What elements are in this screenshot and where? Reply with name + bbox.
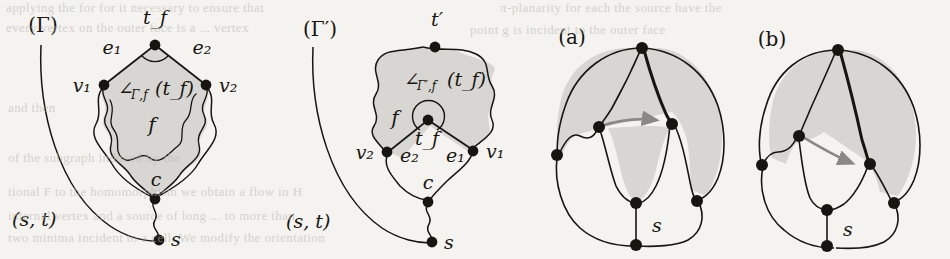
label-a-s: s (652, 214, 662, 236)
vertex-b-bottom-right (888, 197, 900, 209)
bleed-line: point g is incident to the outer face (470, 22, 666, 38)
label-t-prime: t′ (431, 8, 444, 30)
vertex-a-left (551, 149, 563, 161)
panel-caption-gamma-prime: (Γ′) (303, 17, 337, 41)
vertex-tf (150, 40, 161, 51)
vertex-b-s (821, 240, 833, 252)
bleed-line: π-planarity for each the source have the (500, 0, 722, 16)
bleed-line: of the subgraph induced by the (8, 150, 181, 166)
figure-container: applying the for for it necessary to ens… (0, 0, 950, 259)
vertex-a-mid-right (666, 118, 678, 130)
angle-subscript: Γ′,f (416, 79, 439, 93)
label-tf-prime: t_f (415, 127, 442, 150)
vertex-a-mid-left (593, 121, 605, 133)
vertex-s-prime (427, 237, 438, 248)
label-v2-prime: v₂ (356, 141, 374, 163)
angle-argument: (t_f) (155, 77, 194, 100)
panel-gamma-prime: (Γ′) t′ ∠ Γ′,f (t_f) f t_f v₂ v₁ e₂ e₁ c… (286, 8, 504, 253)
bleed-line: tional F to the homomorphism we obtain a… (8, 184, 302, 200)
vertex-tf-prime (423, 115, 434, 126)
vertex-t-prime (430, 42, 441, 53)
vertex-a-top (636, 42, 648, 54)
label-s-prime: s (444, 231, 454, 253)
vertex-b-top (832, 44, 844, 56)
vertex-a-bottom-right (691, 195, 703, 207)
outer-curve-a-bottom-right (638, 201, 702, 246)
shaded-region-b (769, 50, 916, 196)
bleed-line: applying the for for it necessary to ens… (6, 0, 264, 16)
label-v1: v₁ (73, 74, 91, 96)
angle-subscript: Γ,f (130, 88, 150, 102)
label-v1-prime: v₁ (486, 140, 504, 162)
vertex-v2-prime (382, 147, 393, 158)
label-e1: e₁ (103, 36, 122, 58)
panel-b: (b) s (756, 27, 920, 252)
bleed-line: and then (8, 100, 56, 116)
vertex-b-left (756, 159, 768, 171)
label-c-prime: c (423, 171, 434, 193)
label-e1-prime: e₁ (446, 144, 465, 166)
label-e2-prime: e₂ (400, 144, 419, 166)
bleed-line: two minima incident to a cell. We modify… (8, 230, 325, 246)
vertex-v2 (201, 80, 212, 91)
edge-c-s-prime (426, 204, 431, 240)
vertex-b-mid-left (793, 130, 805, 142)
bleed-line: every vertex on the outer face is a ... … (6, 20, 249, 36)
vertex-v1-prime (468, 146, 479, 157)
vertex-c-prime (423, 197, 434, 208)
edge-b-mid-down (799, 140, 826, 210)
vertex-v1 (99, 80, 110, 91)
bleed-line: internal vertex and a source of long ...… (8, 208, 295, 224)
label-angle-gamma: ∠ Γ,f (t_f) (118, 77, 194, 102)
angle-argument: (t_f) (447, 68, 486, 91)
panel-a: (a) s (551, 25, 724, 251)
panel-caption-b: (b) (758, 27, 786, 51)
vertex-a-s (630, 239, 642, 251)
edge-b-node-down (829, 166, 868, 210)
label-b-s: s (843, 218, 853, 240)
vertex-b-bottom-mid (821, 204, 833, 216)
shaded-region-a-lobe (608, 126, 670, 202)
vertex-a-bottom-mid (630, 197, 642, 209)
vertex-b-mid-right (864, 158, 876, 170)
label-e2: e₂ (193, 36, 212, 58)
label-v2: v₂ (219, 74, 237, 96)
